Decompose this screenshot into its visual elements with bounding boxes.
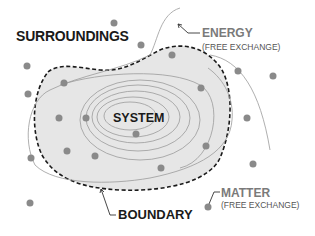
- matter-pointer: [209, 192, 220, 204]
- system-label: SYSTEM: [113, 111, 164, 125]
- open-system-diagram: SURROUNDINGS SYSTEM BOUNDARY ENERGY (FRE…: [0, 0, 315, 236]
- energy-label: ENERGY: [202, 26, 253, 40]
- energy-pointer: [178, 24, 200, 33]
- surroundings-label: SURROUNDINGS: [16, 28, 129, 44]
- matter-label: MATTER: [221, 186, 270, 200]
- boundary-pointer: [100, 189, 116, 215]
- boundary-label: BOUNDARY: [118, 207, 193, 222]
- matter-sublabel: (FREE EXCHANGE): [221, 200, 299, 210]
- energy-sublabel: (FREE EXCHANGE): [202, 42, 280, 52]
